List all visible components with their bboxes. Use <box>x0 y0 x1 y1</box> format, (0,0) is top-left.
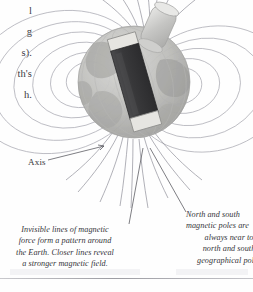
leader-lines <box>48 145 186 224</box>
page-scan-artifact <box>176 269 248 275</box>
field-caption-leader-line <box>129 148 143 224</box>
caption-line: Invisible lines of magnetic <box>2 224 128 235</box>
magnetic-poles-caption: North and south magnetic poles are alway… <box>186 209 253 266</box>
caption-line: magnetic poles are <box>186 220 253 231</box>
caption-line: the Earth. Closer lines reveal <box>2 247 128 258</box>
caption-line: a stronger magnetic field. <box>2 258 128 269</box>
page-bottom-rule <box>0 278 253 279</box>
caption-line: north and south <box>186 243 253 254</box>
poles-caption-leader-line <box>150 148 186 212</box>
axis-label: Axis <box>28 157 46 167</box>
page-scan-artifact <box>10 269 140 275</box>
caption-line: geographical poles <box>186 255 253 266</box>
caption-line: North and south <box>186 209 253 220</box>
caption-line: always near to <box>186 232 253 243</box>
page-canvas: l g s). th's h. <box>0 0 253 292</box>
caption-line: force form a pattern around <box>2 235 128 246</box>
field-lines-caption: Invisible lines of magnetic force form a… <box>2 224 128 270</box>
